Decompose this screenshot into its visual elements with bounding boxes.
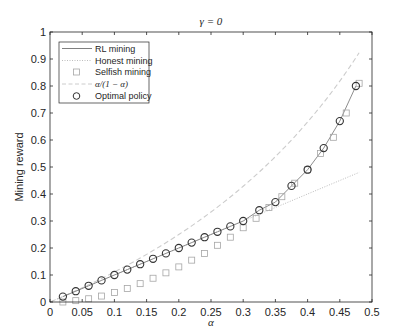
selfish-mining-marker <box>279 194 285 200</box>
y-axis-label: Mining reward <box>13 132 25 201</box>
selfish-mining-marker <box>150 275 156 281</box>
x-tick-label: 0.2 <box>171 306 186 318</box>
x-tick-label: 0 <box>47 306 53 318</box>
x-tick-label: 0.15 <box>136 306 157 318</box>
selfish-mining-marker <box>163 270 169 276</box>
x-tick-label: 0.45 <box>329 306 350 318</box>
y-tick-label: 0.4 <box>31 188 46 200</box>
legend-label: Selfish mining <box>95 67 151 77</box>
y-tick-label: 0.8 <box>31 80 46 92</box>
selfish-mining-marker <box>86 296 92 302</box>
x-tick-label: 0.3 <box>236 306 251 318</box>
selfish-mining-marker <box>227 234 233 240</box>
selfish-mining-marker <box>124 286 130 292</box>
y-tick-label: 0.7 <box>31 107 46 119</box>
selfish-mining-marker <box>176 264 182 270</box>
y-tick-label: 0.5 <box>31 161 46 173</box>
chart-title: γ = 0 <box>200 15 223 27</box>
x-tick-label: 0.35 <box>265 306 286 318</box>
y-tick-label: 0.3 <box>31 215 46 227</box>
selfish-mining-marker <box>202 250 208 256</box>
x-tick-label: 0.05 <box>71 306 92 318</box>
y-tick-label: 0.2 <box>31 242 46 254</box>
chart-figure: 00.050.10.150.20.250.30.350.40.450.500.1… <box>0 0 397 332</box>
y-tick-label: 0.6 <box>31 134 46 146</box>
selfish-mining-marker <box>214 242 220 248</box>
x-axis-label: α <box>208 316 214 328</box>
selfish-mining-marker <box>189 257 195 263</box>
selfish-mining-marker <box>99 293 105 299</box>
legend-label: RL mining <box>95 44 135 54</box>
legend-label: Honest mining <box>95 56 153 66</box>
y-tick-label: 0.1 <box>31 269 46 281</box>
selfish-mining-marker <box>137 281 143 287</box>
x-tick-label: 0.4 <box>300 306 315 318</box>
legend-label: α/(1 − α) <box>95 79 128 89</box>
legend: RL mining Honest mining Selfish mining α… <box>59 42 153 103</box>
selfish-mining-marker <box>73 298 79 304</box>
x-tick-label: 0.1 <box>107 306 122 318</box>
y-tick-label: 1 <box>40 26 46 38</box>
legend-label: Optimal policy <box>95 91 152 101</box>
y-tick-label: 0.9 <box>31 53 46 65</box>
y-tick-label: 0 <box>40 296 46 308</box>
selfish-mining-marker <box>253 215 259 221</box>
x-tick-label: 0.5 <box>364 306 379 318</box>
selfish-mining-marker <box>240 225 246 231</box>
selfish-mining-marker <box>111 290 117 296</box>
